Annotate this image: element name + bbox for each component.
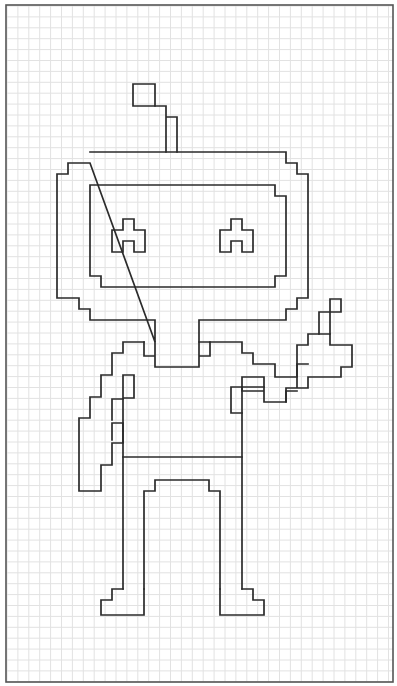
- robot-antenna-stem: [155, 106, 177, 152]
- drawing-canvas: [0, 0, 397, 686]
- robot-thumb: [319, 299, 341, 334]
- robot-face-inner: [90, 185, 286, 287]
- robot-left-shoulder-arm: [79, 342, 144, 491]
- robot-antenna-tip: [133, 84, 155, 106]
- robot-drawing: [57, 84, 352, 615]
